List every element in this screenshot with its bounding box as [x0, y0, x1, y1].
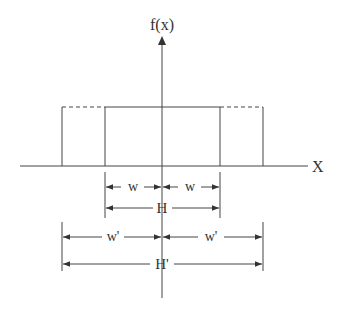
- dimension-H-prime: H': [63, 256, 262, 272]
- x-axis: X: [20, 158, 324, 175]
- rect-function-diagram: f(x) X w w H: [0, 0, 340, 314]
- label-H-prime: H': [155, 256, 169, 272]
- arrow-up-icon: [158, 36, 166, 45]
- label-w-left: w: [128, 179, 139, 194]
- x-axis-label: X: [312, 158, 324, 175]
- dimension-H: H: [106, 200, 219, 216]
- dimension-w-left: w: [106, 179, 161, 194]
- label-w-prime-right: w': [205, 229, 218, 244]
- dimension-w-prime-left: w': [63, 229, 161, 244]
- dimension-w-prime-right: w': [163, 229, 262, 244]
- dimension-w-right: w: [163, 179, 219, 194]
- label-w-right: w: [185, 179, 196, 194]
- label-w-prime-left: w': [107, 229, 120, 244]
- y-axis-label: f(x): [150, 16, 174, 34]
- label-H: H: [157, 200, 168, 216]
